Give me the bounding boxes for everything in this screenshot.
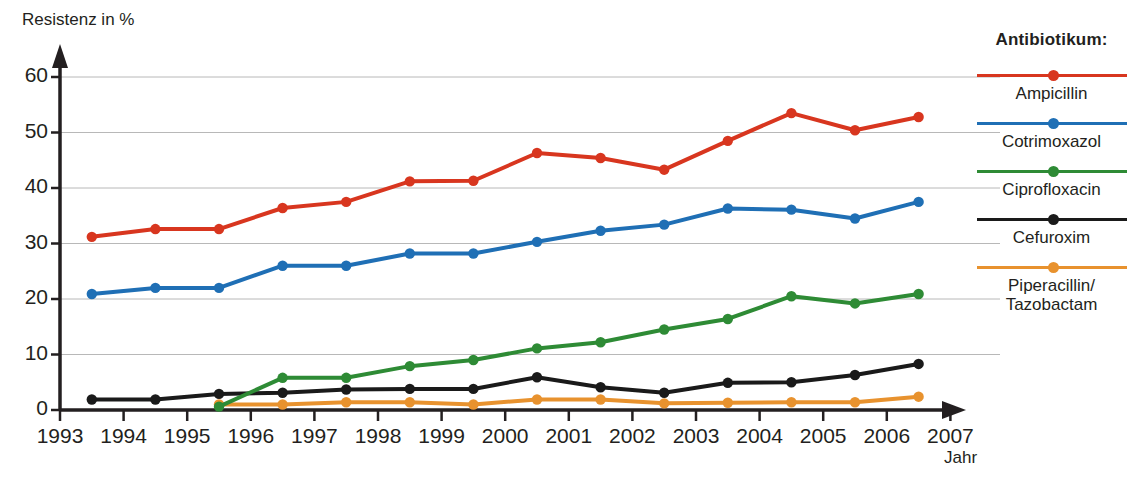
x-tick-label: 2005 [788,424,858,448]
legend-title: Antibiotikum: [960,30,1143,50]
x-tick-label: 2002 [597,424,667,448]
x-tick-label: 2003 [661,424,731,448]
legend: Antibiotikum: AmpicillinCotrimoxazolCipr… [960,30,1143,327]
legend-marker-dot [1048,262,1059,273]
x-tick-label: 1994 [89,424,159,448]
legend-swatch [977,212,1127,226]
x-tick-label: 1999 [407,424,477,448]
x-tick-label: 2007 [915,424,985,448]
x-tick-label: 1993 [25,424,95,448]
legend-marker-dot [1048,70,1059,81]
legend-marker-dot [1048,214,1059,225]
legend-item[interactable]: Ciprofloxacin [960,164,1143,199]
x-tick-label: 1995 [152,424,222,448]
x-tick-label: 1996 [216,424,286,448]
legend-item-label: Piperacillin/Tazobactam [960,276,1143,314]
legend-marker-dot [1048,166,1059,177]
series-ciprofloxacin [214,289,924,412]
series-ampicillin [87,108,924,242]
x-tick-label: 1997 [279,424,349,448]
legend-swatch [977,260,1127,274]
legend-item[interactable]: Piperacillin/Tazobactam [960,260,1143,314]
y-tick-label: 60 [4,63,48,87]
y-tick-label: 50 [4,119,48,143]
legend-item-label: Cotrimoxazol [960,132,1143,151]
legend-item-label: Ciprofloxacin [960,180,1143,199]
y-tick-label: 0 [4,396,48,420]
legend-item[interactable]: Cotrimoxazol [960,116,1143,151]
legend-item[interactable]: Cefuroxim [960,212,1143,247]
x-tick-label: 1998 [343,424,413,448]
legend-item[interactable]: Ampicillin [960,68,1143,103]
legend-marker-dot [1048,118,1059,129]
x-tick-label: 2004 [725,424,795,448]
series-cotrimoxazol [87,197,924,300]
legend-swatch [977,68,1127,82]
legend-swatch [977,164,1127,178]
legend-item-label: Cefuroxim [960,228,1143,247]
x-tick-label: 2001 [534,424,604,448]
y-tick-label: 10 [4,341,48,365]
legend-swatch [977,116,1127,130]
x-tick-label: 2006 [852,424,922,448]
legend-item-label: Ampicillin [960,84,1143,103]
y-tick-label: 20 [4,285,48,309]
series-cefuroxim [87,359,924,405]
series-piperacillin-tazobactam [214,391,924,409]
x-tick-label: 2000 [470,424,540,448]
y-tick-label: 40 [4,174,48,198]
chart-figure: Resistenz in % Jahr 0102030405060 199319… [0,0,1143,482]
y-tick-label: 30 [4,230,48,254]
